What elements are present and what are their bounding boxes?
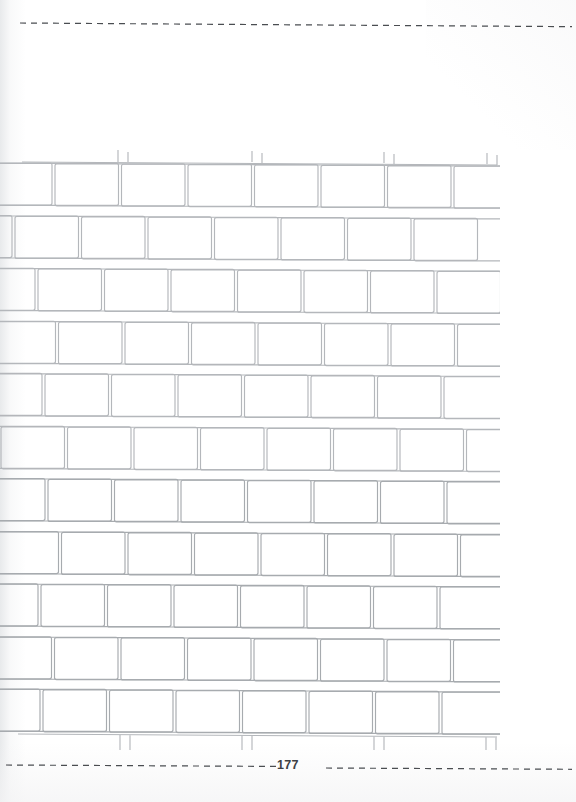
brick-row-9 <box>0 584 500 629</box>
page-number: 177 <box>0 758 576 772</box>
brick-row-3 <box>0 268 500 313</box>
brick-row-7 <box>0 479 500 524</box>
brick-row-10 <box>0 636 500 682</box>
workbook-page: 177 <box>0 0 576 802</box>
top-trim-line <box>20 22 572 28</box>
page-corner-shadow <box>426 0 576 150</box>
brick-row-11 <box>0 689 500 734</box>
brick-wall-template <box>0 150 500 750</box>
brick-row-2 <box>0 216 500 261</box>
brick-row-1 <box>0 163 500 208</box>
brick-row-8 <box>0 531 500 577</box>
brick-row-5 <box>0 373 500 418</box>
brick-row-clipped-top <box>22 150 497 165</box>
brick-row-6 <box>0 426 500 472</box>
brick-wall-svg <box>0 150 500 750</box>
brick-row-clipped-bottom <box>18 734 497 750</box>
brick-row-4 <box>0 321 500 367</box>
page-bottom-shadow <box>0 742 576 802</box>
